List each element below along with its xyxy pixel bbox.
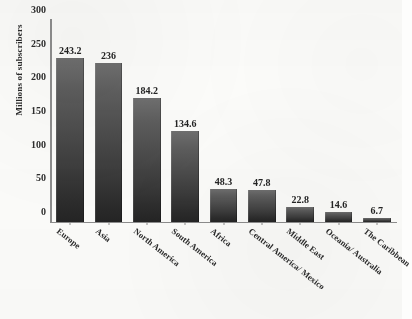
bar[interactable] bbox=[56, 58, 84, 222]
x-tick-mark bbox=[261, 222, 262, 225]
x-tick-mark bbox=[223, 222, 224, 225]
x-tick-mark bbox=[70, 222, 71, 225]
bar-slot[interactable]: 48.3 bbox=[210, 20, 238, 222]
x-tick-mark bbox=[338, 222, 339, 225]
bar[interactable] bbox=[286, 207, 314, 222]
bar[interactable] bbox=[95, 63, 123, 222]
plot-area: 050100150200250300 243.2236184.2134.648.… bbox=[51, 20, 396, 222]
bar-value-label: 48.3 bbox=[215, 176, 233, 187]
y-tick-label: 150 bbox=[31, 105, 46, 116]
y-tick-label: 300 bbox=[31, 4, 46, 15]
x-category-label: Africa bbox=[208, 226, 233, 248]
bar-value-label: 22.8 bbox=[291, 194, 309, 205]
bar-slot[interactable]: 236 bbox=[95, 20, 123, 222]
bar-slot[interactable]: 184.2 bbox=[133, 20, 161, 222]
bar-slot[interactable]: 6.7 bbox=[363, 20, 391, 222]
bar-slot[interactable]: 47.8 bbox=[248, 20, 276, 222]
y-axis-line bbox=[50, 19, 52, 222]
y-axis-title: Millions of subscribers bbox=[9, 4, 29, 136]
y-tick-label: 0 bbox=[41, 206, 46, 217]
x-tick-mark bbox=[108, 222, 109, 225]
bar-value-label: 184.2 bbox=[136, 85, 159, 96]
x-category-label: Europe bbox=[55, 226, 83, 251]
bar-value-label: 134.6 bbox=[174, 118, 197, 129]
bar-slot[interactable]: 14.6 bbox=[325, 20, 353, 222]
y-tick-label: 100 bbox=[31, 138, 46, 149]
bar-slot[interactable]: 134.6 bbox=[171, 20, 199, 222]
bar-value-label: 6.7 bbox=[371, 205, 384, 216]
bar-value-label: 236 bbox=[101, 50, 116, 61]
x-tick-mark bbox=[185, 222, 186, 225]
x-category-label: Asia bbox=[93, 226, 112, 244]
bar[interactable] bbox=[325, 212, 353, 222]
bar-value-label: 243.2 bbox=[59, 45, 82, 56]
y-tick-label: 250 bbox=[31, 37, 46, 48]
bar[interactable] bbox=[171, 131, 199, 222]
bar-slot[interactable]: 243.2 bbox=[56, 20, 84, 222]
y-tick-label: 200 bbox=[31, 71, 46, 82]
bar[interactable] bbox=[210, 189, 238, 222]
bar[interactable] bbox=[248, 190, 276, 222]
x-tick-mark bbox=[146, 222, 147, 225]
bar-value-label: 14.6 bbox=[330, 199, 348, 210]
bar-slot[interactable]: 22.8 bbox=[286, 20, 314, 222]
x-tick-mark bbox=[300, 222, 301, 225]
bar-value-label: 47.8 bbox=[253, 177, 271, 188]
x-tick-mark bbox=[376, 222, 377, 225]
y-tick-label: 50 bbox=[36, 172, 46, 183]
bar[interactable] bbox=[133, 98, 161, 222]
